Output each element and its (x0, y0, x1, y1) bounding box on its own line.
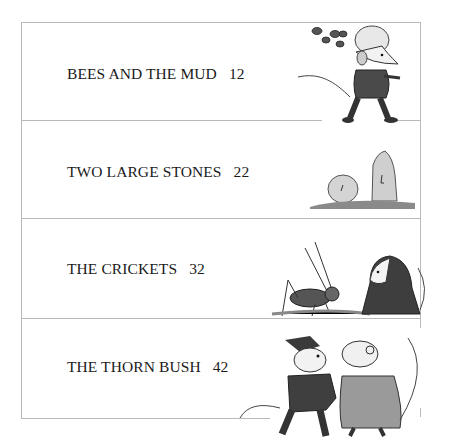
two-mice-illustration (230, 330, 440, 443)
entry-title: BEES AND THE MUD (67, 65, 217, 82)
mouse-with-bees-illustration (290, 22, 420, 128)
cricket-and-mouse-illustration (270, 238, 430, 320)
entry-page-number: 22 (234, 163, 250, 180)
toc-entry[interactable]: THE THORN BUSH42 (67, 358, 228, 376)
entry-title: THE CRICKETS (67, 260, 177, 277)
entry-page-number: 42 (213, 358, 229, 375)
divider-2 (21, 218, 421, 219)
toc-entry[interactable]: TWO LARGE STONES22 (67, 163, 249, 181)
entry-page-number: 12 (229, 65, 245, 82)
entry-title: THE THORN BUSH (67, 358, 201, 375)
entry-page-number: 32 (189, 260, 205, 277)
entry-title: TWO LARGE STONES (67, 163, 222, 180)
toc-entry[interactable]: THE CRICKETS32 (67, 260, 205, 278)
toc-entry[interactable]: BEES AND THE MUD12 (67, 65, 245, 83)
two-stones-illustration (305, 145, 420, 215)
